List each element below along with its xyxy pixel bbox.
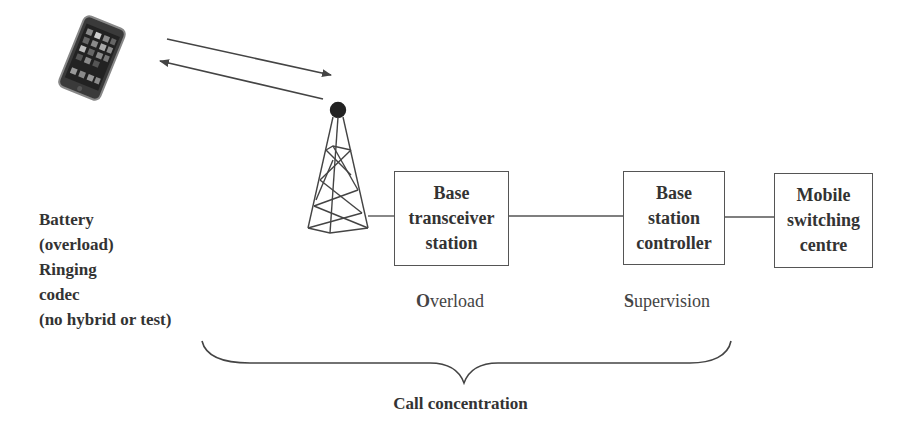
bts-function-rest: verload xyxy=(430,291,484,311)
base-transceiver-station-box: Base transceiver station xyxy=(394,171,509,266)
bsc-function-label: Supervision xyxy=(624,291,710,312)
handset-functions-list: Battery (overload) Ringing codec (no hyb… xyxy=(39,207,171,332)
handset-function-item: (overload) xyxy=(39,232,171,257)
handset-function-item: codec xyxy=(39,282,171,307)
msc-line-2: switching xyxy=(787,208,860,233)
uplink-arrow-icon xyxy=(167,39,331,75)
diagram: Base transceiver station Base station co… xyxy=(0,0,909,433)
mobile-switching-centre-box: Mobile switching centre xyxy=(774,173,873,268)
bts-line-2: transceiver xyxy=(409,206,495,231)
cell-tower-icon xyxy=(308,103,368,234)
base-station-controller-box: Base station controller xyxy=(623,171,725,265)
bsc-function-initial: S xyxy=(624,291,634,311)
call-concentration-brace xyxy=(202,341,731,383)
bts-function-label: Overload xyxy=(416,291,484,312)
call-concentration-label: Call concentration xyxy=(0,394,909,414)
bts-line-3: station xyxy=(409,231,495,256)
downlink-arrow-icon xyxy=(160,61,323,99)
bts-line-1: Base xyxy=(409,181,495,206)
smartphone-icon xyxy=(57,15,126,102)
bsc-line-2: station xyxy=(636,206,712,231)
handset-function-item: Ringing xyxy=(39,257,171,282)
bsc-line-1: Base xyxy=(636,181,712,206)
bts-function-initial: O xyxy=(416,291,430,311)
handset-function-item: (no hybrid or test) xyxy=(39,307,171,332)
bsc-function-rest: upervision xyxy=(634,291,710,311)
bsc-line-3: controller xyxy=(636,231,712,256)
msc-line-1: Mobile xyxy=(787,183,860,208)
msc-line-3: centre xyxy=(787,233,860,258)
handset-function-item: Battery xyxy=(39,207,171,232)
